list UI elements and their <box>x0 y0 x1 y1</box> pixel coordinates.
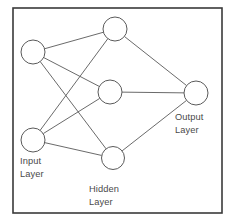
input-layer-label-line2: Layer <box>20 169 44 179</box>
input-layer-label-line1: Input <box>20 156 41 166</box>
node-hidden-h3 <box>102 147 125 170</box>
neural-network-diagram: InputLayerHiddenLayerOutputLayer <box>0 0 237 223</box>
output-layer-label-line2: Layer <box>175 125 199 135</box>
node-input-i2 <box>21 128 45 152</box>
output-layer-label-line1: Output <box>175 112 204 122</box>
node-input-i1 <box>21 40 45 64</box>
hidden-layer-label-line1: Hidden <box>89 184 119 194</box>
diagram-canvas: InputLayerHiddenLayerOutputLayer <box>0 0 237 223</box>
node-output-o1 <box>184 81 208 105</box>
node-hidden-h2 <box>98 80 122 104</box>
hidden-layer-label-line2: Layer <box>89 197 113 207</box>
node-hidden-h1 <box>103 17 127 41</box>
